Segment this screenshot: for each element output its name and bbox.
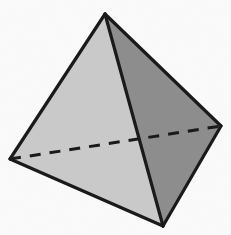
tetrahedron-drawing: [0, 0, 231, 235]
tetrahedron-figure: [0, 0, 231, 235]
